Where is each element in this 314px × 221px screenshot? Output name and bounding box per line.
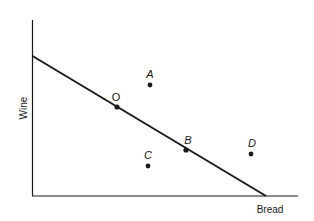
point-d <box>249 152 254 157</box>
x-axis-label: Bread <box>257 204 284 215</box>
point-d-label: D <box>248 137 256 149</box>
point-b-label: B <box>184 134 191 146</box>
budget-line-diagram: Bread Wine O A B C D <box>0 0 314 221</box>
point-o <box>114 104 119 109</box>
point-b <box>183 147 188 152</box>
point-c <box>146 164 151 169</box>
point-c-label: C <box>144 149 152 161</box>
point-a <box>148 83 153 88</box>
y-axis-label: Wine <box>18 96 29 119</box>
point-o-label: O <box>112 91 121 103</box>
point-a-label: A <box>145 68 153 80</box>
